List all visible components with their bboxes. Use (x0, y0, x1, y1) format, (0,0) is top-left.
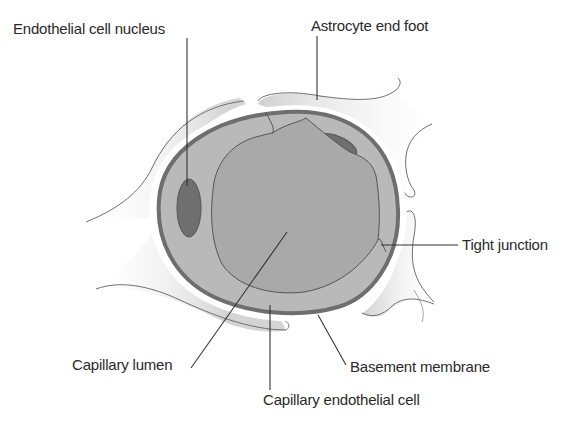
label-capillary-endothelial-cell: Capillary endothelial cell (263, 391, 420, 409)
label-basement-membrane: Basement membrane (350, 358, 490, 376)
label-endothelial-cell-nucleus: Endothelial cell nucleus (13, 20, 165, 38)
label-tight-junction: Tight junction (462, 236, 548, 254)
leader-basement (318, 315, 346, 365)
endothelial-cell-nucleus-left (177, 179, 201, 237)
label-astrocyte-end-foot: Astrocyte end foot (311, 17, 428, 35)
label-capillary-lumen: Capillary lumen (72, 356, 172, 374)
